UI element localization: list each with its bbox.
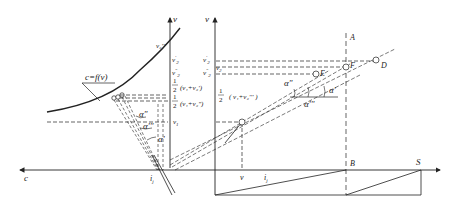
point-S-label: S <box>416 157 421 167</box>
right-angle-alpha-pp: α" <box>284 78 293 88</box>
left-tick-half1-num: 1 <box>173 77 177 85</box>
velocity-time-diagram: v v c=f(v) v₂''' α" α''' α' v'2 v"2 1 2 … <box>0 0 454 208</box>
right-tick-half-num: 1 <box>219 87 223 95</box>
left-tick-half2-den: 2 <box>173 102 177 110</box>
point-A-label: A <box>349 33 355 42</box>
curve-label: c=f(v) <box>85 72 108 82</box>
angle-alpha-ppp: α''' <box>143 121 155 131</box>
left-tick-half1-expr: (v₁+v₂') <box>180 84 203 92</box>
left-v-axis-label: v <box>173 14 177 24</box>
right-angle-alpha-ppp: α''' <box>304 99 316 109</box>
right-tick-v2ppp: v2 <box>216 64 222 73</box>
angle-alpha-p: α' <box>158 134 166 144</box>
right-tick-half-expr: ( v₁+v₂''' ) <box>229 93 258 101</box>
point-B-label: B <box>350 159 355 168</box>
curve-point-v2ppp: v₂''' <box>156 42 167 50</box>
point-E-label: E <box>319 69 325 78</box>
point-E <box>313 71 319 77</box>
right-v-axis-label: v <box>205 14 209 24</box>
point-D <box>373 57 379 63</box>
right-tick-half-den: 2 <box>219 96 223 104</box>
curve-label-leader <box>82 83 100 101</box>
bottom-ij-label: ij <box>264 173 268 183</box>
left-tick-v2p: v'2 <box>172 55 179 65</box>
origin-ij-label: ij <box>150 174 154 184</box>
left-tick-half2-num: 1 <box>173 93 177 101</box>
left-tick-half2-expr: (v₁+v₂") <box>180 100 204 108</box>
c-axis-label: c <box>24 173 28 183</box>
point-D-label: D <box>380 61 387 70</box>
bottom-v-label: v <box>240 173 244 182</box>
point-F-label: F <box>349 61 355 70</box>
point-v <box>239 119 245 125</box>
right-tick-v2p: v'2 <box>203 55 210 65</box>
right-tick-v2pp: v"2 <box>203 68 211 78</box>
left-tick-v1: v1 <box>173 118 179 127</box>
point-F <box>343 64 349 70</box>
right-angle-alpha-p: α' <box>329 85 337 95</box>
